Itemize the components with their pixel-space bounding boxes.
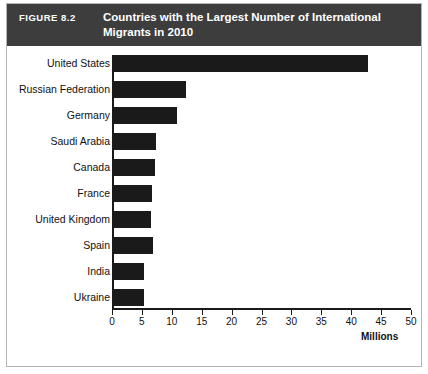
category-label: France [77,185,110,202]
x-axis-tick [411,310,412,315]
x-axis-tick-label: 10 [166,316,177,327]
category-label: India [87,263,110,280]
x-axis-tick-label: 20 [226,316,237,327]
category-label: Canada [73,159,110,176]
x-axis-tick [142,310,143,315]
bar [112,263,144,280]
bar-chart: United StatesRussian FederationGermanySa… [7,46,421,366]
figure-header: FIGURE 8.2 Countries with the Largest Nu… [7,4,421,46]
x-axis-tick [321,310,322,315]
category-label: Russian Federation [19,81,110,98]
bar [112,159,155,176]
bar [112,211,151,228]
x-axis-tick [202,310,203,315]
category-label: Spain [83,237,110,254]
x-axis-tick [291,310,292,315]
bar [112,55,368,72]
x-axis-tick-label: 45 [376,316,387,327]
x-axis-tick [172,310,173,315]
x-axis-tick-label: 40 [346,316,357,327]
bar [112,133,156,150]
figure-title: Countries with the Largest Number of Int… [103,10,421,39]
bar [112,237,153,254]
bar [112,289,144,306]
category-label: United States [47,55,110,72]
bar [112,107,177,124]
category-label: Germany [67,107,110,124]
bar [112,81,186,98]
x-axis-tick-label: 15 [196,316,207,327]
x-axis-tick [381,310,382,315]
x-axis-tick [112,310,113,315]
x-axis-unit-label: Millions [361,331,398,342]
x-axis-tick [262,310,263,315]
figure-number-label: FIGURE 8.2 [7,11,103,24]
x-axis-tick [351,310,352,315]
category-label: Ukraine [74,289,110,306]
x-axis-tick-label: 30 [286,316,297,327]
x-axis-tick [232,310,233,315]
bar [112,185,152,202]
x-axis-tick-label: 0 [109,316,115,327]
x-axis-tick-label: 5 [139,316,145,327]
x-axis-tick-label: 25 [256,316,267,327]
figure-panel: FIGURE 8.2 Countries with the Largest Nu… [6,3,422,367]
x-axis-tick-label: 35 [316,316,327,327]
plot-area: United StatesRussian FederationGermanySa… [7,46,421,366]
category-label: United Kingdom [35,211,110,228]
category-label: Saudi Arabia [50,133,110,150]
x-axis-tick-label: 50 [405,316,416,327]
